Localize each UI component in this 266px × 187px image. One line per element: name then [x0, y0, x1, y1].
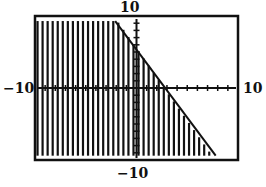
graph-window — [0, 0, 266, 187]
